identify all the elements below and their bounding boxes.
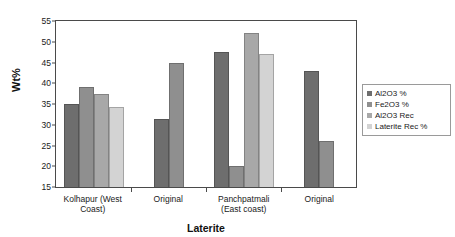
bar [229, 166, 244, 187]
x-axis-category-label: Original [131, 194, 207, 214]
y-axis-title: Wt% [10, 68, 22, 92]
bar [304, 71, 319, 187]
bar [214, 52, 229, 187]
bar [154, 119, 169, 187]
x-axis-category-label: Original [282, 194, 358, 214]
legend-item: Al2O3 Rec [367, 110, 447, 121]
legend-item-label: Al2O3 % [375, 89, 407, 98]
bar-chart: Wt% 555045403530252015 Kolhapur (West Co… [0, 0, 455, 237]
plot-area: 555045403530252015 [55, 20, 357, 188]
legend-swatch [367, 102, 372, 107]
chart-legend: Al2O3 %Fe2O3 %Al2O3 RecLaterite Rec % [362, 84, 451, 136]
legend-item: Laterite Rec % [367, 121, 447, 132]
legend-item: Al2O3 % [367, 88, 447, 99]
bar [79, 87, 94, 187]
bar [169, 63, 184, 188]
x-axis-category-label: Panchpatmali (East coast) [206, 194, 282, 214]
x-axis-tick-mark [131, 187, 132, 192]
bar [244, 33, 259, 187]
bar-group [131, 21, 206, 187]
bar-series-layer [56, 21, 356, 187]
legend-item: Fe2O3 % [367, 99, 447, 110]
x-axis-tick-mark [281, 187, 282, 192]
bar-group [56, 21, 131, 187]
bar [94, 94, 109, 187]
legend-swatch [367, 113, 372, 118]
bar [109, 107, 124, 187]
legend-swatch [367, 91, 372, 96]
bar [64, 104, 79, 187]
bar-group [281, 21, 356, 187]
x-axis-category-labels: Kolhapur (West Coast)OriginalPanchpatmal… [55, 194, 357, 214]
legend-swatch [367, 124, 372, 129]
legend-item-label: Fe2O3 % [375, 100, 409, 109]
bar-group [206, 21, 281, 187]
bar [259, 54, 274, 187]
bar [319, 141, 334, 187]
legend-item-label: Laterite Rec % [375, 122, 427, 131]
x-axis-title: Laterite [55, 222, 357, 234]
x-axis-category-label: Kolhapur (West Coast) [55, 194, 131, 214]
x-axis-tick-mark [206, 187, 207, 192]
legend-item-label: Al2O3 Rec [375, 111, 414, 120]
